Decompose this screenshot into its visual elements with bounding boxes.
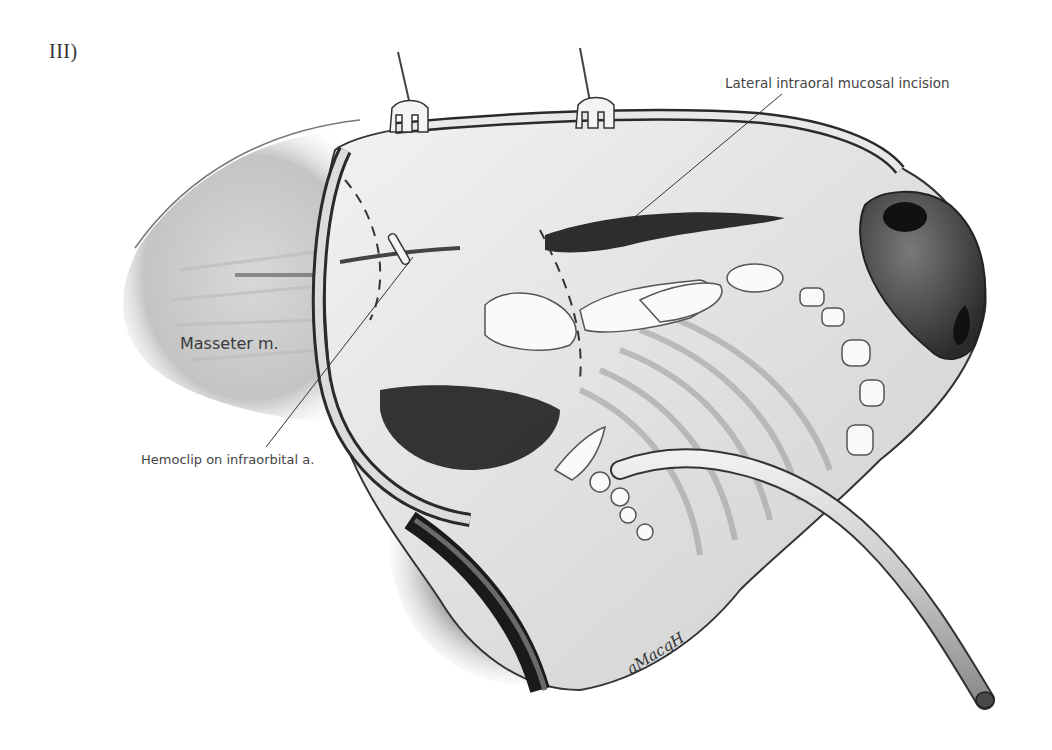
label-incision: Lateral intraoral mucosal incision (725, 75, 950, 91)
panel-label: III) (49, 40, 78, 63)
label-masseter: Masseter m. (180, 334, 279, 353)
label-hemoclip: Hemoclip on infraorbital a. (141, 452, 314, 467)
surgical-illustration (0, 0, 1052, 750)
